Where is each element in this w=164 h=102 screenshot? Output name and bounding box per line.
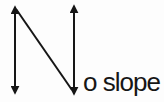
slope-label-text: o slope: [83, 69, 160, 95]
no-slope-diagram: o slope: [0, 0, 164, 102]
diagonal-line: [16, 9, 72, 90]
